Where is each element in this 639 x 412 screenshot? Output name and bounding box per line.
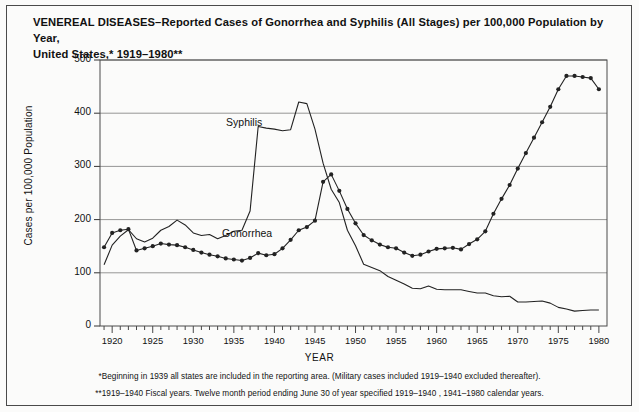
x-tick-label: 1960 <box>417 335 457 346</box>
data-point <box>556 87 560 91</box>
data-point <box>248 256 252 260</box>
data-point <box>159 241 163 245</box>
data-point <box>386 245 390 249</box>
data-point <box>532 136 536 140</box>
data-point <box>508 183 512 187</box>
data-point <box>207 253 211 257</box>
data-series <box>102 74 601 311</box>
x-tick-label: 1955 <box>376 335 416 346</box>
y-tick-label: 100 <box>57 266 91 277</box>
y-tick-label: 400 <box>57 106 91 117</box>
data-point <box>102 245 106 249</box>
data-point <box>313 219 317 223</box>
data-point <box>297 228 301 232</box>
x-tick-label: 1935 <box>214 335 254 346</box>
data-point <box>524 151 528 155</box>
x-tick-label: 1930 <box>173 335 213 346</box>
y-tick-label: 300 <box>57 159 91 170</box>
data-point <box>232 257 236 261</box>
x-axis-label: YEAR <box>0 352 639 363</box>
x-tick-label: 1950 <box>336 335 376 346</box>
x-tick-label: 1920 <box>92 335 132 346</box>
series-annotation-gonorrhea: Gonorrhea <box>222 227 272 239</box>
x-tick-label: 1945 <box>295 335 335 346</box>
data-point <box>272 252 276 256</box>
data-point <box>410 254 414 258</box>
data-point <box>362 233 366 237</box>
data-point <box>378 243 382 247</box>
data-point <box>305 225 309 229</box>
x-tick-label: 1970 <box>498 335 538 346</box>
data-point <box>516 166 520 170</box>
data-point <box>256 251 260 255</box>
data-point <box>264 253 268 257</box>
series-annotation-syphilis: Syphilis <box>226 116 262 128</box>
data-point <box>435 247 439 251</box>
x-tick-label: 1975 <box>538 335 578 346</box>
data-point <box>151 244 155 248</box>
data-point <box>589 76 593 80</box>
data-point <box>467 242 471 246</box>
data-point <box>370 238 374 242</box>
data-point <box>548 105 552 109</box>
plot-border <box>100 60 607 326</box>
data-point <box>597 87 601 91</box>
data-point <box>329 172 333 176</box>
data-point <box>499 197 503 201</box>
data-point <box>118 228 122 232</box>
data-point <box>418 253 422 257</box>
series-line-syphilis <box>104 102 599 311</box>
data-point <box>451 246 455 250</box>
data-point <box>280 246 284 250</box>
data-point <box>167 243 171 247</box>
y-tick-label: 500 <box>57 53 91 64</box>
y-tick-label: 200 <box>57 213 91 224</box>
data-point <box>564 74 568 78</box>
plot-frame <box>100 60 607 326</box>
data-point <box>143 246 147 250</box>
series-line-gonorrhea <box>104 76 599 261</box>
data-point <box>321 180 325 184</box>
data-point <box>110 231 114 235</box>
footnote-asterisk: *Beginning in 1939 all states are includ… <box>0 372 639 381</box>
x-tick-label: 1980 <box>579 335 619 346</box>
plot-area: Cases per 100,000 Population 01002003004… <box>0 0 639 412</box>
data-point <box>337 189 341 193</box>
data-point <box>402 250 406 254</box>
data-point <box>240 258 244 262</box>
data-point <box>289 238 293 242</box>
chart-figure: VENEREAL DISEASES–Reported Cases of Gono… <box>0 0 639 412</box>
data-point <box>353 221 357 225</box>
data-point <box>459 247 463 251</box>
chart-canvas <box>0 0 639 412</box>
data-point <box>572 74 576 78</box>
data-point <box>483 229 487 233</box>
data-point <box>216 254 220 258</box>
data-point <box>394 246 398 250</box>
data-point <box>183 245 187 249</box>
x-axis-ticks <box>94 60 599 333</box>
x-tick-label: 1965 <box>457 335 497 346</box>
data-point <box>199 250 203 254</box>
x-tick-label: 1925 <box>133 335 173 346</box>
x-tick-label: 1940 <box>254 335 294 346</box>
data-point <box>191 248 195 252</box>
data-point <box>443 246 447 250</box>
data-point <box>426 249 430 253</box>
data-point <box>175 243 179 247</box>
data-point <box>224 256 228 260</box>
footnote-double-asterisk: **1919–1940 Fiscal years. Twelve month p… <box>0 389 639 398</box>
data-point <box>475 237 479 241</box>
data-point <box>134 248 138 252</box>
data-point <box>540 120 544 124</box>
data-point <box>491 212 495 216</box>
data-point <box>581 75 585 79</box>
y-axis-label: Cases per 100,000 Population <box>23 91 34 261</box>
y-tick-label: 0 <box>57 319 91 330</box>
data-point <box>345 207 349 211</box>
